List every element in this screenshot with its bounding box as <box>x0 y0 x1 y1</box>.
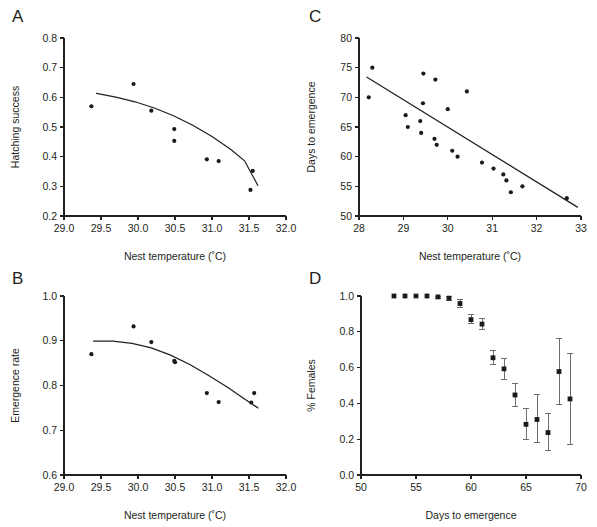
y-tick-label: 0.0 <box>339 469 354 481</box>
data-point <box>149 340 153 344</box>
data-point <box>513 393 518 398</box>
x-tick-label: 29 <box>398 222 410 234</box>
data-point <box>436 294 441 299</box>
x-axis-title: Nest temperature (˚C) <box>124 250 226 262</box>
plot-b: B29.029.530.030.531.031.532.00.60.70.80.… <box>0 262 300 527</box>
data-point <box>565 196 569 200</box>
data-point <box>131 324 135 328</box>
panel-letter-d: D <box>309 269 321 288</box>
data-point <box>557 369 562 374</box>
data-point <box>149 109 153 113</box>
data-point <box>403 294 408 299</box>
data-point <box>252 391 256 395</box>
data-point <box>455 155 459 159</box>
x-tick-label: 70 <box>575 481 587 493</box>
data-point <box>501 172 505 176</box>
y-tick-label: 0.6 <box>42 469 57 481</box>
data-point <box>425 294 430 299</box>
x-tick-label: 30.5 <box>165 222 186 234</box>
x-tick-label: 31.5 <box>239 481 260 493</box>
data-point <box>414 294 419 299</box>
data-point <box>480 322 485 327</box>
x-tick-label: 29.0 <box>54 222 75 234</box>
x-tick-label: 65 <box>520 481 532 493</box>
panel-letter-a: A <box>12 7 24 26</box>
data-point <box>465 89 469 93</box>
panel-letter-c: C <box>309 7 321 26</box>
x-axis-title: Nest temperature (˚C) <box>124 509 226 521</box>
x-tick-label: 60 <box>465 481 477 493</box>
data-point <box>406 125 410 129</box>
x-tick-label: 33 <box>575 222 587 234</box>
y-axis-title: Days to emergence <box>305 81 317 172</box>
figure-container: A29.029.530.030.531.031.532.00.20.30.40.… <box>0 0 597 527</box>
y-tick-label: 0.7 <box>42 61 57 73</box>
x-tick-label: 55 <box>410 481 422 493</box>
fit-line <box>367 77 577 207</box>
y-tick-label: 0.8 <box>42 379 57 391</box>
data-point <box>419 131 423 135</box>
panel-c: C28293031323350556065707580Nest temperat… <box>297 0 597 268</box>
y-tick-label: 60 <box>340 150 352 162</box>
x-tick-label: 28 <box>353 222 365 234</box>
y-tick-label: 55 <box>340 180 352 192</box>
data-point <box>172 139 176 143</box>
x-tick-label: 31.0 <box>202 481 223 493</box>
y-tick-label: 1.0 <box>339 290 354 302</box>
data-point <box>248 188 252 192</box>
data-point <box>89 104 93 108</box>
data-point <box>491 166 495 170</box>
data-point <box>502 366 507 371</box>
y-tick-label: 0.4 <box>42 150 57 162</box>
x-tick-label: 32.0 <box>276 222 297 234</box>
data-point <box>251 169 255 173</box>
y-tick-label: 0.7 <box>42 424 57 436</box>
data-point <box>418 119 422 123</box>
data-point <box>370 66 374 70</box>
data-point <box>404 113 408 117</box>
y-tick-label: 80 <box>340 32 352 44</box>
y-tick-label: 75 <box>340 61 352 73</box>
data-point <box>450 149 454 153</box>
x-tick-label: 50 <box>355 481 367 493</box>
data-point <box>172 127 176 131</box>
data-point <box>447 296 452 301</box>
y-tick-label: 0.2 <box>339 433 354 445</box>
data-point <box>524 422 529 427</box>
panel-d: D50556065700.00.20.40.60.81.0Days to eme… <box>297 262 597 527</box>
data-point <box>458 301 463 306</box>
y-axis-title: Emergence rate <box>9 348 21 423</box>
fit-line <box>94 341 258 408</box>
plot-a: A29.029.530.030.531.031.532.00.20.30.40.… <box>0 0 300 268</box>
data-point <box>446 107 450 111</box>
data-point <box>173 360 177 364</box>
x-tick-label: 30 <box>442 222 454 234</box>
data-point <box>433 77 437 81</box>
data-point <box>217 400 221 404</box>
data-point <box>568 397 573 402</box>
y-tick-label: 0.5 <box>42 121 57 133</box>
data-point <box>205 391 209 395</box>
x-tick-label: 31.0 <box>202 222 223 234</box>
x-tick-label: 31 <box>486 222 498 234</box>
x-axis-title: Days to emergence <box>425 509 516 521</box>
x-axis-title: Nest temperature (˚C) <box>419 250 521 262</box>
x-tick-label: 32 <box>531 222 543 234</box>
y-tick-label: 65 <box>340 121 352 133</box>
data-point <box>131 82 135 86</box>
data-point <box>546 430 551 435</box>
y-tick-label: 0.3 <box>42 180 57 192</box>
panel-letter-b: B <box>12 269 23 288</box>
x-tick-label: 31.5 <box>239 222 260 234</box>
y-tick-label: 0.8 <box>339 325 354 337</box>
data-point <box>421 101 425 105</box>
y-tick-label: 0.9 <box>42 334 57 346</box>
data-point <box>509 190 513 194</box>
y-tick-label: 0.6 <box>339 361 354 373</box>
x-tick-label: 30.0 <box>128 481 149 493</box>
data-point <box>469 317 474 322</box>
data-point <box>205 157 209 161</box>
data-point <box>480 161 484 165</box>
plot-d: D50556065700.00.20.40.60.81.0Days to eme… <box>297 262 597 527</box>
y-tick-label: 0.6 <box>42 91 57 103</box>
